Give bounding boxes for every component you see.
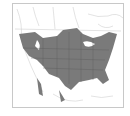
- range-shading: [19, 28, 117, 102]
- map-frame: [12, 3, 124, 108]
- range-map: [13, 4, 125, 109]
